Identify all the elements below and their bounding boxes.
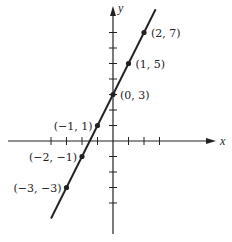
point-label: (−1, 1)	[54, 120, 93, 133]
point-label: (1, 5)	[136, 58, 166, 71]
point-label: (0, 3)	[120, 89, 150, 102]
data-point	[79, 154, 84, 159]
point-label: (2, 7)	[151, 27, 181, 40]
coordinate-plane: xy (2, 7)(1, 5)(0, 3)(−1, 1)(−2, −1)(−3,…	[0, 0, 232, 242]
data-point	[110, 92, 115, 97]
points: (2, 7)(1, 5)(0, 3)(−1, 1)(−2, −1)(−3, −3…	[13, 27, 180, 195]
x-axis-label: x	[219, 134, 226, 148]
data-point	[126, 61, 131, 66]
point-label: (−3, −3)	[13, 182, 61, 195]
data-point	[95, 123, 100, 128]
axes: xy	[8, 1, 226, 234]
y-axis-arrow-icon	[110, 6, 116, 16]
y-axis-label: y	[117, 1, 124, 15]
x-axis-arrow-icon	[206, 138, 216, 144]
data-point	[141, 30, 146, 35]
data-point	[64, 185, 69, 190]
point-label: (−2, −1)	[29, 151, 77, 164]
